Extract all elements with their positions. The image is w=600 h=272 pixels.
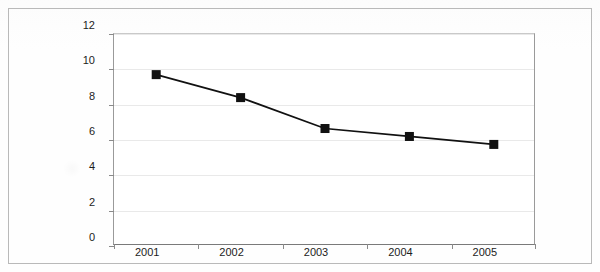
- y-axis-tick-label: 4: [69, 160, 95, 172]
- y-axis-tick-label: 6: [69, 125, 95, 137]
- chart-page: 024681012 20012002200320042005: [0, 0, 600, 272]
- plot-area: [113, 33, 535, 245]
- y-axis-tick-label: 10: [69, 54, 95, 66]
- data-point-marker: [152, 70, 161, 79]
- chart-outer-frame: 024681012 20012002200320042005: [8, 8, 592, 264]
- x-axis-tick-label: 2003: [304, 246, 328, 258]
- x-axis-tick-label: 2004: [388, 246, 412, 258]
- x-axis-tick-label: 2001: [135, 246, 159, 258]
- data-point-marker: [321, 124, 330, 133]
- data-point-marker: [405, 132, 414, 141]
- data-series-layer: [114, 34, 536, 246]
- data-point-marker: [489, 140, 498, 149]
- data-point-marker: [236, 93, 245, 102]
- x-axis-tick-label: 2005: [473, 246, 497, 258]
- series-markers-group: [152, 70, 499, 149]
- y-axis-tick-label: 0: [69, 231, 95, 243]
- y-axis-tick-label: 12: [69, 19, 95, 31]
- y-axis-tick-label: 2: [69, 196, 95, 208]
- x-axis-tick-label: 2002: [219, 246, 243, 258]
- y-axis-tick-label: 8: [69, 90, 95, 102]
- series-line: [156, 75, 494, 145]
